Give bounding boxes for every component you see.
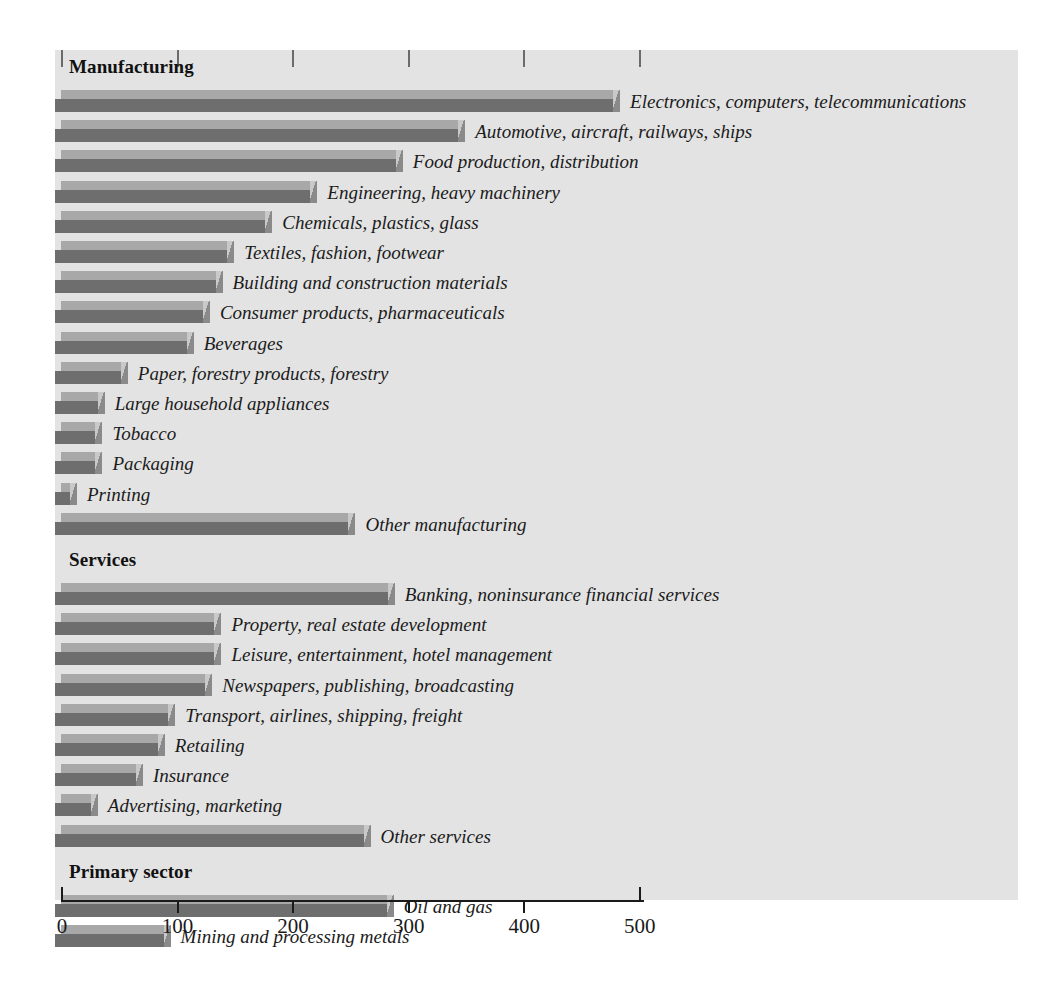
bar-label: Leisure, entertainment, hotel management: [231, 644, 552, 666]
bar-end-cap: [348, 513, 355, 535]
bar-highlight: [61, 674, 211, 683]
bar-label: Packaging: [112, 453, 193, 475]
bar-label: Large household appliances: [115, 393, 330, 415]
bar: [55, 513, 355, 535]
bar-body: [55, 401, 98, 414]
bar-label: Tobacco: [112, 423, 176, 445]
bar-body: [55, 522, 348, 535]
bar: [55, 120, 465, 142]
bar-end-cap: [95, 422, 102, 444]
bar-row: Food production, distribution: [55, 150, 1005, 172]
bar: [55, 483, 77, 505]
bar: [55, 613, 221, 635]
bar-label: Automotive, aircraft, railways, ships: [475, 121, 752, 143]
bar-highlight: [61, 332, 193, 341]
bar-highlight: [61, 120, 464, 129]
bar: [55, 704, 175, 726]
bar-end-cap: [168, 704, 175, 726]
bar-end-cap: [203, 301, 210, 323]
x-axis-tick-label-300: 300: [393, 914, 425, 939]
bar-row: Property, real estate development: [55, 613, 1005, 635]
bar-highlight: [61, 583, 394, 592]
bar-row: Packaging: [55, 452, 1005, 474]
bar-label: Retailing: [175, 735, 245, 757]
x-axis-tick-label-100: 100: [162, 914, 194, 939]
bar-row: Chemicals, plastics, glass: [55, 211, 1005, 233]
bar-end-cap: [136, 764, 143, 786]
bar-body: [55, 773, 136, 786]
bar-label: Insurance: [153, 765, 229, 787]
bar-row: Engineering, heavy machinery: [55, 181, 1005, 203]
bar-body: [55, 310, 203, 323]
x-axis-tick-300: [408, 900, 410, 913]
bar-body: [55, 592, 388, 605]
bar: [55, 674, 212, 696]
bar-row: Retailing: [55, 734, 1005, 756]
top-tick-0: [61, 50, 63, 67]
bar-body: [55, 341, 187, 354]
bar-end-cap: [216, 271, 223, 293]
bar-end-cap: [91, 794, 98, 816]
bar-label: Chemicals, plastics, glass: [282, 212, 478, 234]
bar-body: [55, 683, 205, 696]
bar-label: Other services: [381, 826, 491, 848]
bar: [55, 734, 165, 756]
bar-end-cap: [98, 392, 105, 414]
bar-end-cap: [265, 211, 272, 233]
bar-row: Textiles, fashion, footwear: [55, 241, 1005, 263]
section-heading-services: Services: [69, 549, 136, 571]
bar-row: Paper, forestry products, forestry: [55, 362, 1005, 384]
bar-body: [55, 834, 364, 847]
bar-highlight: [61, 362, 127, 371]
bar: [55, 332, 194, 354]
bar-end-cap: [396, 150, 403, 172]
bar-body: [55, 492, 70, 505]
bar-label: Beverages: [204, 333, 283, 355]
horizontal-bar-chart: ManufacturingElectronics, computers, tel…: [0, 0, 1063, 983]
x-axis-tick-label-0: 0: [57, 914, 68, 939]
bar-label: Advertising, marketing: [108, 795, 282, 817]
bar-body: [55, 129, 458, 142]
bar-label: Textiles, fashion, footwear: [244, 242, 444, 264]
bar-row: Printing: [55, 483, 1005, 505]
bar: [55, 362, 128, 384]
top-tick-300: [408, 50, 410, 67]
bar-highlight: [61, 301, 209, 310]
bar-end-cap: [227, 241, 234, 263]
bar-body: [55, 652, 214, 665]
bar-body: [55, 622, 214, 635]
bar-highlight: [61, 181, 316, 190]
x-axis-tick-label-400: 400: [508, 914, 540, 939]
bar: [55, 181, 317, 203]
bar-row: Newspapers, publishing, broadcasting: [55, 674, 1005, 696]
bar-highlight: [61, 211, 271, 220]
bar-highlight: [61, 613, 220, 622]
bar-end-cap: [70, 483, 77, 505]
bar-row: Consumer products, pharmaceuticals: [55, 301, 1005, 323]
x-axis-tick-200: [292, 900, 294, 913]
bar-label: Newspapers, publishing, broadcasting: [222, 675, 514, 697]
bar-label: Food production, distribution: [413, 151, 639, 173]
bar-highlight: [61, 271, 222, 280]
bar-body: [55, 220, 265, 233]
bar-row: Other services: [55, 825, 1005, 847]
bar-end-cap: [205, 674, 212, 696]
bar-end-cap: [364, 825, 371, 847]
bar: [55, 90, 620, 112]
bar-row: Banking, noninsurance financial services: [55, 583, 1005, 605]
bar-row: Transport, airlines, shipping, freight: [55, 704, 1005, 726]
x-axis-tick-label-200: 200: [277, 914, 309, 939]
bar-row: Insurance: [55, 764, 1005, 786]
x-axis: 0100200300400500: [55, 900, 655, 940]
bar-label: Property, real estate development: [231, 614, 486, 636]
bar-row: Leisure, entertainment, hotel management: [55, 643, 1005, 665]
bar-body: [55, 280, 216, 293]
bar: [55, 422, 102, 444]
bar-highlight: [61, 150, 402, 159]
bar-end-cap: [458, 120, 465, 142]
bar-body: [55, 159, 396, 172]
bar-highlight: [61, 513, 354, 522]
bar-body: [55, 371, 121, 384]
bar-row: Advertising, marketing: [55, 794, 1005, 816]
bar-end-cap: [388, 583, 395, 605]
